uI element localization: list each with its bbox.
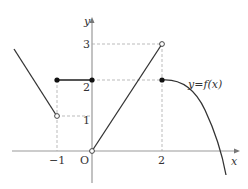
function-graph: y x O −1 2 1 2 3 y=f(x)	[0, 0, 248, 189]
right-curve-piece	[162, 80, 226, 175]
origin-label: O	[80, 154, 89, 167]
open-point-origin	[90, 149, 95, 154]
y-axis-label: y	[83, 15, 91, 28]
left-line-piece	[14, 49, 56, 114]
x-axis-arrow-icon	[234, 149, 240, 154]
tick-label-x-neg1: −1	[49, 154, 65, 167]
y-axis-arrow-icon	[90, 17, 95, 23]
open-point-neg1-1	[55, 114, 60, 119]
open-point-2-3	[160, 42, 165, 47]
closed-point-0-2	[89, 77, 94, 82]
closed-point-neg1-2	[54, 77, 59, 82]
guide-lines	[57, 44, 162, 151]
x-axis-label: x	[231, 155, 238, 168]
function-label: y=f(x)	[187, 78, 222, 91]
middle-line-piece	[93, 46, 161, 150]
closed-point-2-2	[159, 77, 164, 82]
tick-label-y-1: 1	[83, 114, 90, 127]
tick-label-y-3: 3	[83, 38, 90, 51]
tick-label-x-2: 2	[158, 154, 165, 167]
tick-label-y-2: 2	[83, 81, 90, 94]
